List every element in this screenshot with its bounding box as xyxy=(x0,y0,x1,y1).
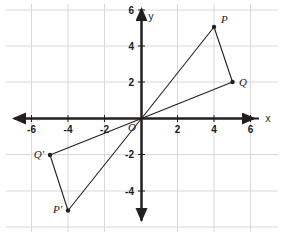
y-tick-label-neg4: -4 xyxy=(125,186,134,197)
y-tick-label-4: 4 xyxy=(128,41,134,52)
point-label-Q: Q xyxy=(239,76,247,88)
triangle-OPQ xyxy=(142,27,233,119)
x-tick-label-neg4: -4 xyxy=(64,124,73,135)
x-axis-tick-labels: -6 -4 -2 2 4 6 xyxy=(27,124,254,135)
x-tick-label-6: 6 xyxy=(248,124,254,135)
point-marker-P-prime xyxy=(66,208,70,212)
x-tick-label-2: 2 xyxy=(175,124,181,135)
y-tick-label-6: 6 xyxy=(128,5,134,16)
point-marker-Q xyxy=(230,80,234,84)
x-tick-label-neg6: -6 xyxy=(27,124,36,135)
y-axis-tick-labels: -4 -2 2 4 6 xyxy=(125,5,134,197)
segment-P-to-Q xyxy=(214,27,233,82)
point-marker-P xyxy=(212,25,216,29)
point-label-Q-prime: Q' xyxy=(34,148,45,160)
y-axis-label: y xyxy=(149,11,154,22)
y-tick-label-2: 2 xyxy=(128,77,134,88)
x-tick-label-4: 4 xyxy=(211,124,217,135)
y-tick-label-neg2: -2 xyxy=(125,149,134,160)
point-label-P: P xyxy=(220,13,228,25)
point-marker-Q-prime xyxy=(48,153,52,157)
axes xyxy=(14,9,259,221)
point-label-P-prime: P' xyxy=(52,203,63,215)
x-axis-label: x xyxy=(266,113,271,124)
coordinate-plot: -6 -4 -2 2 4 6 -4 -2 2 4 6 x y O xyxy=(0,0,284,236)
segment-Q-to-O xyxy=(142,82,233,119)
point-labels: P Q P' Q' xyxy=(34,13,247,215)
coordinate-plane-figure: -6 -4 -2 2 4 6 -4 -2 2 4 6 x y O xyxy=(0,0,284,236)
